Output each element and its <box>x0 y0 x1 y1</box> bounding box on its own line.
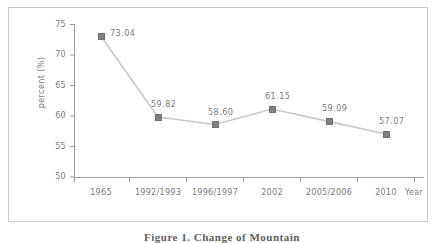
figure-caption: Figure 1. Change of Mountain <box>0 231 444 243</box>
data-point-label: 58.60 <box>208 108 233 117</box>
x-tick-label: 2005/2006 <box>299 188 359 197</box>
x-tick-label: 1996/1997 <box>185 188 245 197</box>
data-point-label: 73.04 <box>110 29 135 38</box>
y-tick-label: 65 <box>44 81 66 90</box>
data-point-label: 61.15 <box>265 92 290 101</box>
data-point-marker <box>155 114 162 121</box>
figure-container: percent (%) 75 70 65 60 55 50 1965 1992/… <box>0 0 444 243</box>
data-point-marker <box>326 118 333 125</box>
x-tick-label: 2002 <box>242 188 302 197</box>
data-point-marker <box>383 131 390 138</box>
y-tick-label: 75 <box>44 20 66 29</box>
y-tick-label: 50 <box>44 172 66 181</box>
y-tick-label: 55 <box>44 142 66 151</box>
data-point-label: 59.82 <box>151 100 176 109</box>
x-tick-label: 1992/1993 <box>128 188 188 197</box>
data-point-marker <box>212 121 219 128</box>
data-point-label: 59.09 <box>322 104 347 113</box>
x-tick-label: 1965 <box>71 188 131 197</box>
x-axis-title: Year <box>405 188 423 197</box>
data-point-marker <box>269 106 276 113</box>
data-point-marker <box>98 33 105 40</box>
y-tick-label: 60 <box>44 111 66 120</box>
y-tick-label: 70 <box>44 50 66 59</box>
data-point-label: 57.07 <box>379 117 404 126</box>
